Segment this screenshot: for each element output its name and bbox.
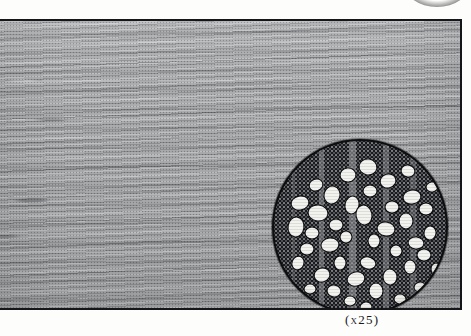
cut-off-arc-icon — [404, 0, 470, 7]
figure-plate: (x25) — [0, 0, 471, 336]
wood-grain-photograph — [0, 19, 462, 310]
microscope-cross-section-inset — [272, 139, 448, 310]
inset-vignette — [272, 139, 448, 310]
magnification-caption: (x25) — [345, 312, 379, 328]
